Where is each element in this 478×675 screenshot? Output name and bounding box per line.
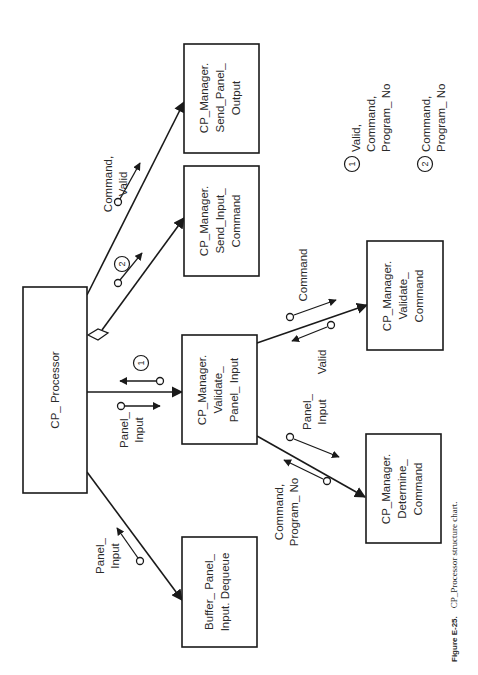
couple-panel-input-vpi: Panel_ Input xyxy=(118,403,161,448)
conn-root-send-input-command xyxy=(102,218,184,330)
couple-ref-1: 1 xyxy=(120,356,164,385)
caption-label: Figure E-25. xyxy=(450,616,459,662)
module-label-line-1: Buffer_ Panel_ xyxy=(203,553,215,629)
module-label-line-2: Validate_ xyxy=(397,272,409,320)
module-determine-command[interactable]: CP_Manager. Determine_ Command xyxy=(366,434,441,543)
legend: 1 Valid, Command, Program_ No 2 Command,… xyxy=(345,84,448,172)
module-label-line-1: CP_Manager. xyxy=(381,261,393,331)
couple-command-valid: Command, Valid xyxy=(102,156,140,212)
svg-text:Valid,: Valid, xyxy=(350,124,362,152)
svg-text:Program_ No: Program_ No xyxy=(380,84,392,152)
svg-text:Program_ No: Program_ No xyxy=(288,478,300,546)
svg-text:Figure E-25. CP_Processo: Figure E-25. CP_Processor structure char… xyxy=(443,501,460,662)
couple-panel-input-buffer: Panel_ Input xyxy=(94,528,144,574)
svg-text:Panel_: Panel_ xyxy=(94,537,106,573)
figure-caption: Figure E-25. CP_Processor structure char… xyxy=(443,501,460,662)
svg-text:Valid: Valid xyxy=(316,350,328,375)
module-label-line-3: Command xyxy=(412,462,424,515)
caption-text: CP_Processor structure chart. xyxy=(449,501,459,608)
svg-text:Panel_: Panel_ xyxy=(301,393,313,429)
module-buffer-panel-input-dequeue[interactable]: Buffer_ Panel_ Input. Dequeue xyxy=(182,537,257,647)
module-label-line-2: Send_Input_ xyxy=(214,188,226,254)
svg-text:Command,: Command, xyxy=(273,484,285,540)
legend-item-1: 1 Valid, Command, Program_ No xyxy=(345,84,393,172)
structure-chart: CP_ Processor CP_Manager. Send_Panel_ Ou… xyxy=(0,0,478,675)
module-label-line-2: Determine_ xyxy=(396,459,408,519)
module-label-line-2: Send_Panel_ xyxy=(214,63,226,133)
module-label: CP_ Processor xyxy=(49,351,61,429)
module-label-line-1: CP_Manager. xyxy=(380,454,392,524)
svg-text:Command,: Command, xyxy=(420,96,432,152)
module-label-line-2: Input. Dequeue xyxy=(219,553,231,632)
svg-text:Input: Input xyxy=(316,398,328,424)
module-validate-command[interactable]: CP_Manager. Validate_ Command xyxy=(367,241,443,350)
svg-text:2: 2 xyxy=(117,261,127,266)
svg-text:Command,: Command, xyxy=(102,156,114,212)
module-label-line-1: CP_Manager. xyxy=(198,63,210,133)
module-send-input-command[interactable]: CP_Manager. Send_Input_ Command xyxy=(184,166,259,276)
svg-text:Program_ No: Program_ No xyxy=(435,84,447,152)
couple-command-vc: Command xyxy=(287,248,337,320)
svg-text:Valid: Valid xyxy=(117,172,129,197)
svg-text:Command: Command xyxy=(297,248,309,301)
svg-text:1: 1 xyxy=(136,360,146,365)
svg-text:1: 1 xyxy=(347,161,357,166)
module-send-panel-output[interactable]: CP_Manager. Send_Panel_ Output xyxy=(184,44,259,153)
module-label-line-2: Validate_ xyxy=(212,366,224,414)
svg-text:2: 2 xyxy=(420,161,430,166)
couple-panel-input-dc: Panel_ Input xyxy=(287,393,340,457)
module-label-line-1: CP_Manager. xyxy=(198,186,210,256)
module-label-line-1: CP_Manager. xyxy=(196,355,208,425)
module-validate-panel-input[interactable]: CP_Manager. Validate_ Panel_ Input xyxy=(182,335,257,444)
conn-vpi-validate-command xyxy=(257,305,367,343)
module-label-line-3: Command xyxy=(230,194,242,247)
svg-text:Input: Input xyxy=(133,416,145,442)
svg-text:Panel_: Panel_ xyxy=(118,411,130,447)
svg-text:Command,: Command, xyxy=(365,96,377,152)
legend-item-2: 2 Command, Program_ No xyxy=(418,84,448,172)
module-cp-processor[interactable]: CP_ Processor xyxy=(23,287,87,493)
conn-root-buffer-dequeue xyxy=(87,472,182,600)
decision-diamond-icon xyxy=(88,329,108,340)
module-label-line-3: Command xyxy=(413,269,425,322)
svg-text:Input: Input xyxy=(109,542,121,568)
module-label-line-3: Output xyxy=(230,80,242,115)
module-label-line-3: Panel_ Input xyxy=(228,357,240,422)
